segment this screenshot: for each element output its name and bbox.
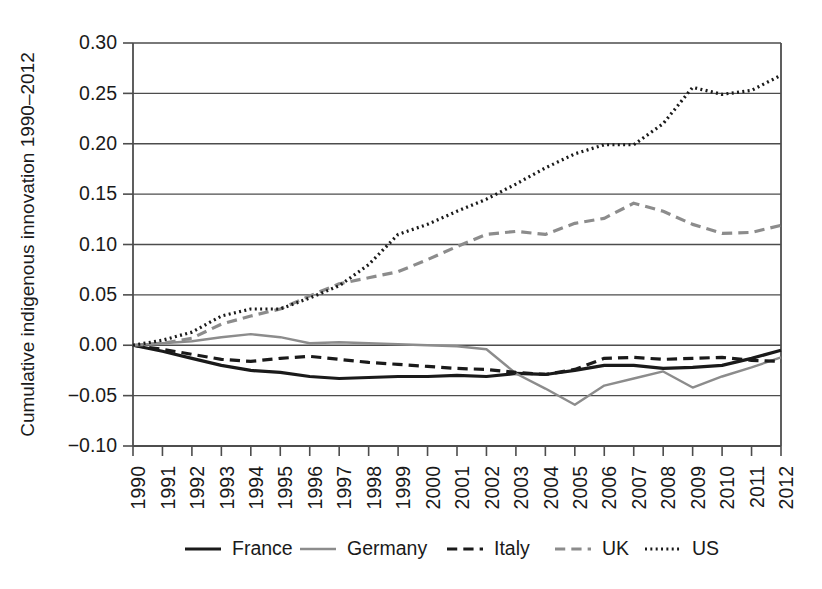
x-tick-label: 2005 <box>569 466 591 510</box>
y-tick-label: 0.15 <box>79 182 117 204</box>
y-tick-label: −0.10 <box>68 434 117 456</box>
x-tick-label: 1994 <box>245 466 267 510</box>
series-line-uk <box>133 203 781 345</box>
y-tick-label: 0.30 <box>79 31 117 53</box>
x-tick-label: 2000 <box>422 466 444 510</box>
y-tick-label: 0.05 <box>79 283 117 305</box>
y-tick-label: −0.05 <box>68 384 117 406</box>
x-tick-label: 2012 <box>775 466 797 509</box>
x-tick-label: 1997 <box>333 466 355 509</box>
y-axis-tick-labels: 0.300.250.200.150.100.050.00−0.05−0.10 <box>68 31 117 456</box>
x-tick-label: 1993 <box>216 466 238 509</box>
data-series <box>133 75 781 404</box>
legend-label-us: US <box>692 537 719 559</box>
legend-label-germany: Germany <box>347 537 427 559</box>
x-tick-label: 1991 <box>157 466 179 509</box>
x-axis-tick-labels: 1990199119921993199419951996199719981999… <box>127 466 797 510</box>
x-tick-label: 2010 <box>716 466 738 510</box>
x-tick-label: 2009 <box>687 466 709 509</box>
series-line-italy <box>133 345 781 374</box>
x-tick-label: 2001 <box>451 466 473 509</box>
series-line-france <box>133 345 781 378</box>
chart-figure: 0.300.250.200.150.100.050.00−0.05−0.10 1… <box>0 0 822 589</box>
x-tick-label: 2007 <box>628 466 650 509</box>
x-tick-label: 1996 <box>304 466 326 509</box>
y-tick-label: 0.10 <box>79 233 117 255</box>
y-axis-title-text: Cumulative indigenous innovation 1990–20… <box>17 52 38 437</box>
x-tick-label: 2003 <box>510 466 532 509</box>
x-tick-label: 2008 <box>657 466 679 509</box>
y-tick-label: 0.00 <box>79 333 117 355</box>
x-tick-label: 1995 <box>274 466 296 510</box>
series-line-us <box>133 75 781 345</box>
y-axis-title: Cumulative indigenous innovation 1990–20… <box>17 52 38 437</box>
x-tick-label: 1992 <box>186 466 208 509</box>
x-tick-label: 1999 <box>392 466 414 509</box>
y-tick-label: 0.25 <box>79 82 117 104</box>
x-tick-label: 1998 <box>363 466 385 509</box>
legend-label-uk: UK <box>602 537 629 559</box>
x-tick-label: 2011 <box>746 466 768 508</box>
x-tick-label: 2002 <box>481 466 503 509</box>
chart-legend: FranceGermanyItalyUKUS <box>185 537 719 559</box>
legend-label-italy: Italy <box>494 537 530 559</box>
legend-label-france: France <box>232 537 293 559</box>
x-tick-label: 2006 <box>598 466 620 509</box>
x-tick-label: 2004 <box>540 466 562 510</box>
y-tick-label: 0.20 <box>79 132 117 154</box>
x-tick-label: 1990 <box>127 466 149 510</box>
line-chart-canvas: 0.300.250.200.150.100.050.00−0.05−0.10 1… <box>0 0 822 589</box>
